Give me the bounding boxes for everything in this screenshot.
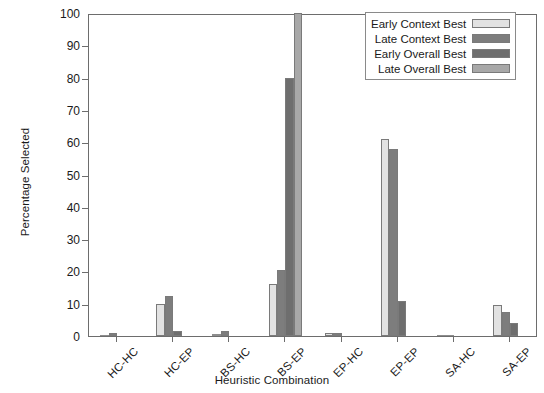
legend-swatch (472, 64, 510, 73)
chart-legend: Early Context BestLate Context BestEarly… (365, 12, 516, 80)
y-axis-tick-label: 80 (34, 72, 80, 86)
bar (333, 333, 341, 336)
bar (100, 335, 108, 336)
legend-item: Early Context Best (371, 16, 510, 31)
x-axis-tick (453, 337, 454, 342)
bar (445, 335, 453, 336)
bar (165, 296, 173, 336)
x-axis-tick (341, 337, 342, 342)
bar (221, 331, 229, 336)
y-axis-tick-label: 60 (34, 136, 80, 150)
bar (285, 78, 293, 336)
bar-group (269, 15, 303, 336)
bar (389, 149, 397, 336)
bar (156, 304, 164, 336)
y-axis-tick-label: 90 (34, 39, 80, 53)
legend-swatch (472, 49, 510, 58)
bar (173, 331, 181, 336)
y-axis-tick-label: 10 (34, 298, 80, 312)
bar (502, 312, 510, 336)
legend-item: Late Context Best (371, 31, 510, 46)
bar (493, 305, 501, 336)
bar (109, 333, 117, 336)
legend-swatch (472, 34, 510, 43)
x-axis-tick (509, 337, 510, 342)
legend-item: Early Overall Best (371, 46, 510, 61)
bar (398, 301, 406, 336)
legend-swatch (472, 19, 510, 28)
bar (277, 270, 285, 336)
legend-label: Early Overall Best (374, 48, 472, 60)
bar (212, 334, 220, 336)
y-axis-title: Percentage Selected (19, 72, 31, 292)
y-axis-tick-label: 20 (34, 265, 80, 279)
x-axis-title: Heuristic Combination (0, 374, 544, 386)
bar (510, 323, 518, 336)
x-axis-tick (116, 337, 117, 342)
bar (381, 139, 389, 336)
legend-label: Late Context Best (375, 33, 472, 45)
x-axis-tick (284, 337, 285, 342)
bar-group (325, 15, 359, 336)
bar (437, 335, 445, 336)
x-axis-tick (228, 337, 229, 342)
bar (294, 13, 302, 336)
y-axis-tick-label: 30 (34, 233, 80, 247)
y-axis-tick-label: 70 (34, 104, 80, 118)
legend-item: Late Overall Best (371, 61, 510, 76)
bar-group (156, 15, 190, 336)
bar (325, 333, 333, 336)
x-axis-tick (397, 337, 398, 342)
y-axis-tick-label: 40 (34, 201, 80, 215)
bar (269, 284, 277, 336)
y-axis-tick-label: 50 (34, 169, 80, 183)
x-axis-tick (172, 337, 173, 342)
y-axis-tick-label: 0 (34, 330, 80, 344)
bar-chart-figure: Percentage Selected 01020304050607080901… (0, 0, 544, 393)
bar-group (100, 15, 134, 336)
legend-label: Late Overall Best (378, 63, 472, 75)
bar-group (212, 15, 246, 336)
legend-label: Early Context Best (371, 18, 472, 30)
y-axis-tick-label: 100 (34, 7, 80, 21)
